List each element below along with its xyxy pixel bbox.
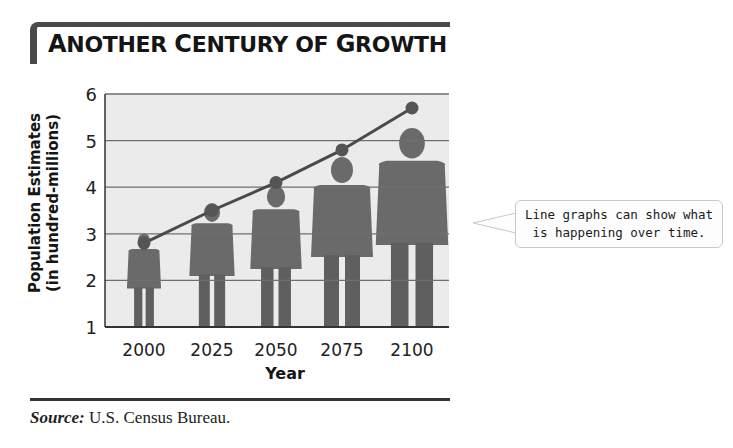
callout-bubble: Line graphs can show what is happening o…	[515, 200, 723, 248]
source-label: Source:	[30, 408, 85, 427]
x-tick-label: 2075	[320, 340, 363, 360]
y-axis-label-line1: Population Estimates	[26, 73, 44, 333]
data-point-marker	[406, 101, 419, 114]
data-point-marker	[138, 237, 151, 250]
x-tick-label: 2100	[390, 340, 433, 360]
x-tick-label: 2050	[254, 340, 297, 360]
y-tick-label: 4	[86, 177, 97, 198]
source-divider	[30, 398, 450, 401]
y-tick-label: 2	[86, 270, 97, 291]
callout-line2: is happening over time.	[516, 224, 722, 242]
callout-line1: Line graphs can show what	[516, 206, 722, 224]
source-note: Source: U.S. Census Bureau.	[30, 408, 230, 428]
y-tick-label: 1	[86, 317, 97, 338]
source-text: U.S. Census Bureau.	[85, 408, 230, 427]
y-axis-label-line2: (in hundred-millions)	[44, 73, 62, 333]
y-tick-label: 6	[86, 84, 97, 105]
y-axis-label: Population Estimates (in hundred-million…	[26, 73, 62, 333]
data-point-marker	[336, 143, 349, 156]
y-tick-label: 3	[86, 224, 97, 245]
y-tick-label: 5	[86, 131, 97, 152]
x-tick-label: 2025	[190, 340, 233, 360]
x-axis-label: Year	[240, 364, 330, 383]
data-point-marker	[270, 176, 283, 189]
x-tick-label: 2000	[122, 340, 165, 360]
data-point-marker	[206, 204, 219, 217]
